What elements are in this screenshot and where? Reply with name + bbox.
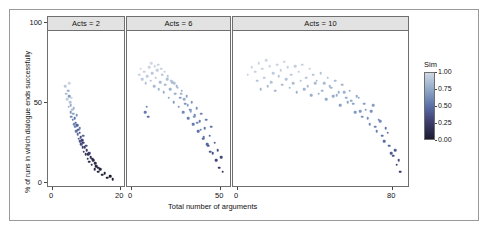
scatter-point <box>203 136 206 139</box>
scatter-point <box>182 111 185 114</box>
scatter-point <box>359 110 362 113</box>
scatter-plot-area <box>233 31 408 186</box>
scatter-point <box>296 91 299 94</box>
x-tick-mark <box>220 187 221 190</box>
scatter-point <box>160 68 163 71</box>
scatter-point <box>91 158 94 161</box>
facet-panel-acts-2: Acts = 2 <box>47 16 125 187</box>
scatter-point <box>195 107 198 110</box>
scatter-point <box>365 108 368 111</box>
scatter-point <box>186 104 189 107</box>
scatter-point <box>386 131 389 134</box>
scatter-plot-area <box>127 31 230 186</box>
scatter-point <box>339 104 342 107</box>
scatter-point <box>314 82 317 85</box>
scatter-point <box>103 172 106 175</box>
scatter-point <box>166 78 169 81</box>
scatter-point <box>82 134 85 137</box>
scatter-point <box>272 72 275 75</box>
scatter-point <box>167 75 170 78</box>
scatter-point <box>321 89 324 92</box>
scatter-point <box>375 130 378 133</box>
scatter-point <box>203 127 206 130</box>
scatter-point <box>259 88 262 91</box>
facet-strip-label: Acts = 6 <box>127 17 230 31</box>
scatter-point <box>156 69 159 72</box>
scatter-point <box>328 85 331 88</box>
scatter-point <box>210 126 213 129</box>
scatter-point <box>70 97 73 100</box>
x-tick-label: 0 <box>49 191 53 200</box>
scatter-point <box>198 120 201 123</box>
scatter-point <box>388 144 391 147</box>
scatter-point <box>310 94 313 97</box>
scatter-point <box>179 97 182 100</box>
scatter-plot-area <box>48 31 124 186</box>
scatter-point <box>287 66 290 69</box>
scatter-point <box>299 79 302 82</box>
scatter-point <box>334 79 337 82</box>
scatter-point <box>323 82 326 85</box>
scatter-point <box>111 178 114 181</box>
scatter-point <box>257 62 260 65</box>
legend-colorbar <box>424 72 435 140</box>
facet-strip-label: Acts = 10 <box>233 17 408 31</box>
scatter-point <box>374 126 377 129</box>
scatter-point <box>180 92 183 95</box>
scatter-point <box>308 68 311 71</box>
figure-container: % of runs in which dialogue ends success… <box>0 0 488 230</box>
y-tick-label-0: 0 <box>24 178 42 187</box>
facet-panel-acts-10: Acts = 10 <box>232 16 409 187</box>
scatter-point <box>274 89 277 92</box>
scatter-point <box>196 121 199 124</box>
scatter-point <box>217 149 220 152</box>
legend-title: Sim <box>424 60 437 69</box>
scatter-point <box>64 85 67 88</box>
x-tick-mark <box>237 187 238 190</box>
scatter-point <box>76 124 79 127</box>
scatter-point <box>157 63 160 66</box>
scatter-point <box>146 75 149 78</box>
scatter-point <box>385 127 388 130</box>
scatter-point <box>368 123 371 126</box>
scatter-point <box>144 111 147 114</box>
scatter-point <box>346 101 349 104</box>
scatter-point <box>319 72 322 75</box>
scatter-point <box>200 113 203 116</box>
scatter-point <box>306 85 309 88</box>
scatter-point <box>199 129 202 132</box>
scatter-point <box>209 150 212 153</box>
scatter-point <box>395 163 398 166</box>
scatter-point <box>206 143 209 146</box>
scatter-point <box>352 102 355 105</box>
scatter-point <box>256 79 259 82</box>
scatter-point <box>88 152 91 155</box>
x-tick-mark <box>131 187 132 190</box>
scatter-point <box>263 76 266 79</box>
scatter-point <box>149 79 152 82</box>
scatter-point <box>145 105 148 108</box>
scatter-point <box>97 166 100 169</box>
scatter-point <box>343 91 346 94</box>
scatter-point <box>361 115 364 118</box>
scatter-point <box>250 66 253 69</box>
scatter-point <box>94 162 97 165</box>
legend-tick-label: 0.25 <box>438 119 452 126</box>
scatter-point <box>183 98 186 101</box>
scatter-point <box>276 63 279 66</box>
scatter-point <box>326 76 329 79</box>
scatter-point <box>205 118 208 121</box>
facet-strip-label: Acts = 2 <box>48 17 124 31</box>
scatter-point <box>383 140 386 143</box>
scatter-point <box>192 123 195 126</box>
scatter-point <box>379 120 382 123</box>
x-axis-label: Total number of arguments <box>168 202 257 211</box>
scatter-point <box>93 168 96 171</box>
scatter-point <box>220 156 223 159</box>
scatter-point <box>141 78 144 81</box>
scatter-point <box>158 88 161 91</box>
scatter-point <box>65 92 68 95</box>
scatter-point <box>392 155 395 158</box>
scatter-point <box>172 101 175 104</box>
scatter-point <box>325 98 328 101</box>
